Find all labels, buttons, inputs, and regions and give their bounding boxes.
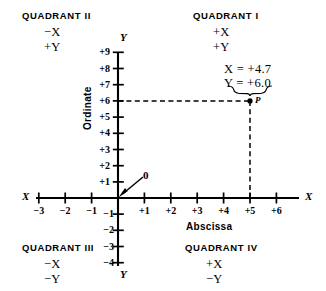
y-tick-label: +7 bbox=[88, 80, 110, 90]
x-tick-label: +5 bbox=[239, 206, 261, 216]
quadrant-3-y-sign: −Y bbox=[44, 273, 60, 286]
quadrant-4-x-sign: +X bbox=[206, 258, 222, 271]
x-tick-label: +2 bbox=[160, 206, 182, 216]
point-p-marker bbox=[247, 98, 252, 103]
y-tick-label: −2 bbox=[92, 225, 114, 235]
y-tick-label: +6 bbox=[88, 96, 110, 106]
quadrant-1-title: QUADRANT I bbox=[193, 11, 259, 21]
quadrant-4-y-sign: −Y bbox=[206, 273, 222, 286]
x-tick-label: −3 bbox=[28, 206, 50, 216]
quadrant-3-title: QUADRANT III bbox=[22, 243, 94, 253]
x-axis-left-letter: X bbox=[22, 191, 29, 202]
x-tick-label: +1 bbox=[133, 206, 155, 216]
quadrant-2-y-sign: +Y bbox=[44, 41, 60, 54]
coordinate-plane-figure: QUADRANT II −X +Y QUADRANT I +X +Y QUADR… bbox=[0, 0, 326, 291]
y-axis-top-letter: Y bbox=[120, 32, 127, 43]
y-tick-label: −1 bbox=[92, 209, 114, 219]
x-axis-name-abscissa: Abscissa bbox=[186, 222, 232, 232]
y-axis-name-ordinate: Ordinate bbox=[83, 86, 93, 130]
y-tick-label: +4 bbox=[88, 128, 110, 138]
quadrant-1-y-sign: +Y bbox=[213, 41, 229, 54]
point-p-label: P bbox=[255, 96, 261, 105]
y-tick-label: +3 bbox=[88, 145, 110, 155]
y-tick-label: +1 bbox=[88, 177, 110, 187]
x-tick-label: +4 bbox=[213, 206, 235, 216]
quadrant-2-x-sign: −X bbox=[44, 26, 60, 39]
quadrant-3-x-sign: −X bbox=[44, 258, 60, 271]
x-tick-label: −2 bbox=[54, 206, 76, 216]
quadrant-2-title: QUADRANT II bbox=[22, 11, 91, 21]
y-tick-label: −4 bbox=[92, 258, 114, 268]
x-axis-right-letter: X bbox=[305, 191, 312, 202]
quadrant-1-x-sign: +X bbox=[213, 26, 229, 39]
y-tick-label: −3 bbox=[92, 242, 114, 252]
quadrant-4-title: QUADRANT IV bbox=[185, 243, 258, 253]
y-tick-label: +8 bbox=[88, 64, 110, 74]
y-axis-bottom-letter: Y bbox=[120, 269, 127, 280]
x-tick-label: +6 bbox=[265, 206, 287, 216]
x-tick-label: +3 bbox=[186, 206, 208, 216]
y-tick-label: +5 bbox=[88, 112, 110, 122]
origin-pointer-arrow bbox=[119, 177, 144, 198]
point-x-readout: X = +4.7 bbox=[224, 63, 271, 76]
origin-label: 0 bbox=[143, 170, 149, 181]
y-tick-label: +9 bbox=[88, 47, 110, 57]
point-y-readout: Y = +6.0 bbox=[224, 77, 271, 90]
y-tick-label: +2 bbox=[88, 161, 110, 171]
